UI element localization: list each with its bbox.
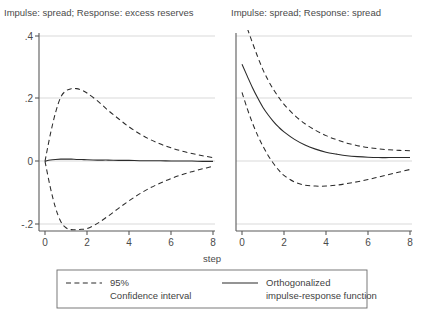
x-axis-title: step <box>203 253 221 264</box>
y-tick-label-left-0.2: .2 <box>25 93 34 104</box>
ci-lower-right <box>242 92 410 186</box>
x-ticks-right <box>242 231 410 235</box>
legend-box <box>57 270 367 308</box>
x-tick-label-left-4: 4 <box>126 237 132 248</box>
x-tick-label-right-6: 6 <box>365 237 371 248</box>
x-tick-label-right-4: 4 <box>323 237 329 248</box>
ci-upper-right <box>242 13 410 151</box>
x-ticks-left <box>45 231 213 235</box>
y-tick-label-left-neg0.2: -.2 <box>21 219 33 230</box>
x-tick-label-left-6: 6 <box>168 237 174 248</box>
gridlines-right <box>236 36 412 224</box>
y-tick-label-left-0: 0 <box>27 156 33 167</box>
irf-chart-svg: Impulse: spread; Response: excess reserv… <box>0 0 425 315</box>
y-ticks-left <box>35 36 39 224</box>
ci-lower-left <box>45 161 213 229</box>
panel-spread: Impulse: spread; Response: spread 0 2 4 … <box>231 7 413 248</box>
x-tick-label-right-8: 8 <box>407 237 413 248</box>
series-group-right <box>242 13 410 187</box>
legend-ci-label-line2: Confidence interval <box>110 290 191 301</box>
y-tick-label-left-0.4: .4 <box>25 31 34 42</box>
legend-ci-label-line1: 95% <box>110 277 130 288</box>
x-tick-label-left-0: 0 <box>42 237 48 248</box>
x-tick-label-left-2: 2 <box>84 237 90 248</box>
impulse-response-figure: Impulse: spread; Response: excess reserv… <box>0 0 425 315</box>
gridlines-left <box>39 36 215 224</box>
legend-irf-label-line2: impulse-response function <box>266 290 377 301</box>
panel-title-left: Impulse: spread; Response: excess reserv… <box>4 7 194 18</box>
legend: 95% Confidence interval Orthogonalized i… <box>57 270 377 308</box>
legend-irf-label-line1: Orthogonalized <box>266 277 330 288</box>
panel-title-right: Impulse: spread; Response: spread <box>231 7 381 18</box>
x-tick-label-left-8: 8 <box>210 237 216 248</box>
x-tick-label-right-0: 0 <box>239 237 245 248</box>
x-tick-label-right-2: 2 <box>281 237 287 248</box>
ci-upper-left <box>45 88 213 161</box>
panel-excess-reserves: Impulse: spread; Response: excess reserv… <box>4 7 216 248</box>
series-group-left <box>45 88 213 229</box>
